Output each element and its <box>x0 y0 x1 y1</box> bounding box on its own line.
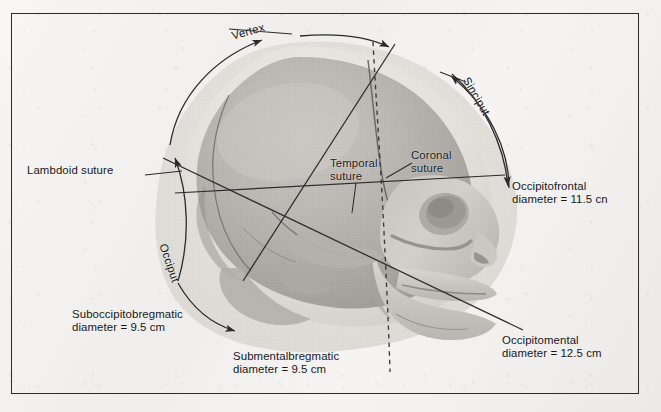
label-occipitofrontal-diameter: Occipitofrontal diameter = 11.5 cn <box>512 180 608 206</box>
label-temporal-suture: Temporal suture <box>330 157 378 183</box>
label-suboccipitobregmatic-diameter: Suboccipitobregmatic diameter = 9.5 cm <box>72 308 183 334</box>
figure-canvas: Vertex Sinciput Occiput Lambdoid suture … <box>0 0 661 412</box>
label-coronal-suture: Coronal suture <box>411 149 452 175</box>
label-submentalbregmatic-diameter: Submentalbregmatic diameter = 9.5 cm <box>233 350 339 376</box>
label-occipitomental-diameter: Occipitomental diameter = 12.5 cm <box>502 334 602 360</box>
label-lambdoid-suture: Lambdoid suture <box>27 164 113 177</box>
